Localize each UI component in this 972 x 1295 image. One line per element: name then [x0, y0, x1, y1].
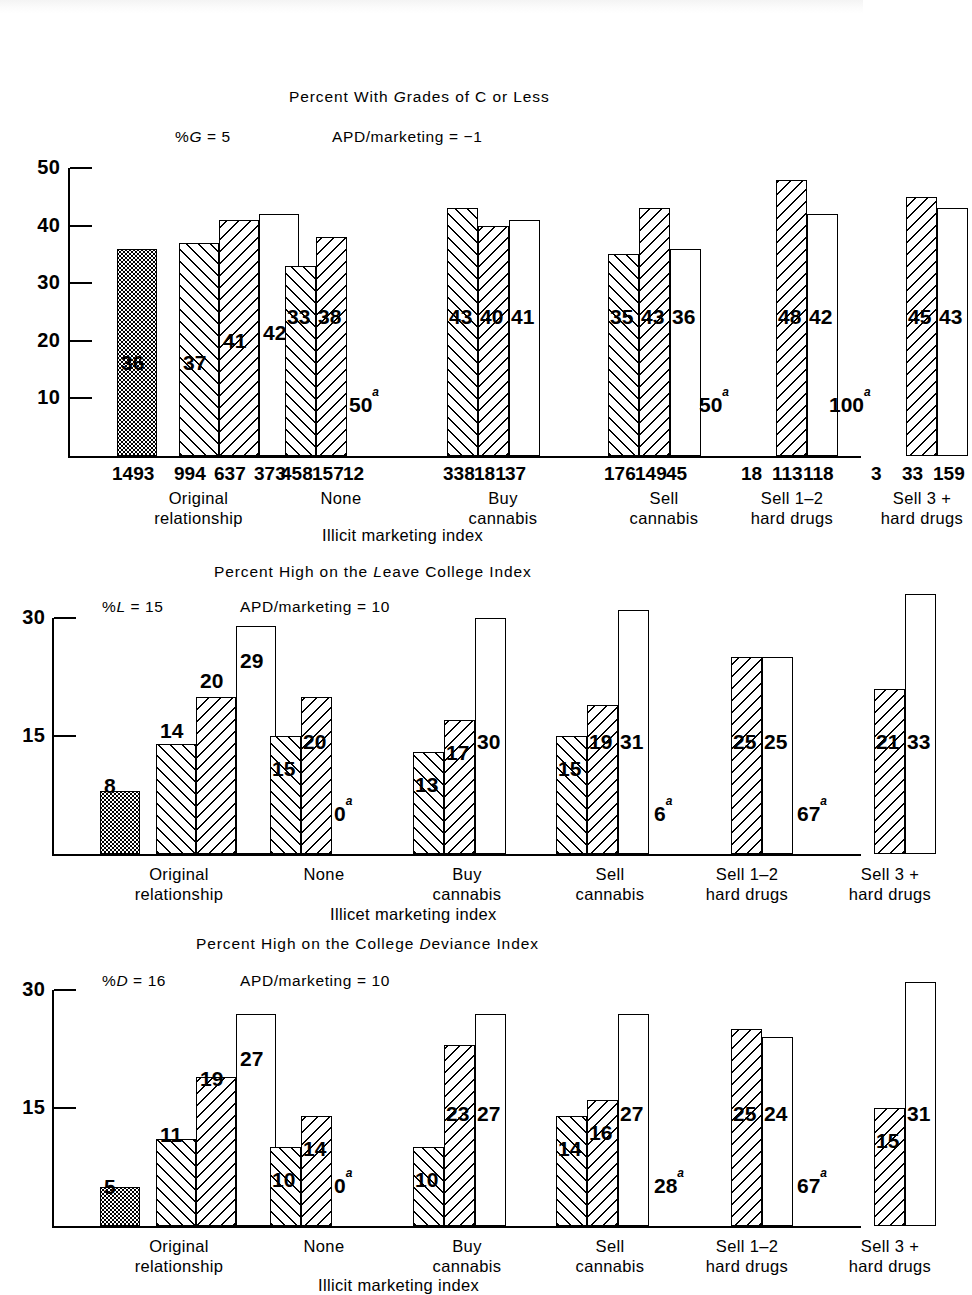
left-annotation-prefix: % — [102, 972, 116, 989]
group-caption: Sell 3 +hard drugs — [857, 488, 972, 528]
bar-n-label: 159 — [933, 464, 965, 483]
bar-n-label: 3 — [871, 464, 882, 483]
left-bar-hatchL — [196, 1077, 236, 1226]
group-caption: None — [268, 1236, 380, 1256]
bar-value-label: 14 — [558, 1138, 581, 1159]
bar-value-label: 45 — [908, 306, 931, 327]
y-tick-label: 15 — [12, 1096, 45, 1119]
group-caption: Sell 1–2hard drugs — [682, 1236, 812, 1276]
y-tick-label: 30 — [12, 978, 45, 1001]
left-bar-value: 5 — [104, 1176, 116, 1197]
group-caption-line-0: Buy — [411, 1236, 523, 1256]
left-bar-value: 11 — [160, 1124, 182, 1145]
group-caption-line-1: hard drugs — [682, 1256, 812, 1276]
panel-title-prefix: Percent High on the College — [196, 935, 419, 952]
right-annotation: APD/marketing = 10 — [240, 972, 390, 990]
bar-value-label: 23 — [446, 1103, 469, 1124]
left-annotation: %D = 16 — [102, 972, 166, 990]
group-caption-line-0: None — [268, 1236, 380, 1256]
group-caption-line-1: hard drugs — [825, 1256, 955, 1276]
panel-title: Percent High on the College Deviance Ind… — [196, 935, 539, 953]
left-group-caption-line-1: relationship — [52, 1256, 306, 1276]
left-annotation-italic-letter: D — [116, 972, 128, 989]
bar-value-label: 27 — [477, 1103, 500, 1124]
group-caption-line-0: Sell 3 + — [825, 1236, 955, 1256]
bar-hatchL — [301, 1116, 332, 1226]
bar-value-label: 31 — [907, 1103, 930, 1124]
bar-n-label: 33 — [902, 464, 923, 483]
bar-value-label: 10 — [415, 1169, 438, 1190]
bar-plain — [762, 1037, 793, 1226]
bar-value-label: 28a — [654, 1175, 684, 1196]
bar-value-label: 24 — [764, 1103, 787, 1124]
bar-value-label: 0a — [334, 1175, 352, 1196]
bar-value-label: 10 — [272, 1169, 295, 1190]
group-caption-line-0: Sell 3 + — [857, 488, 972, 508]
bar-value-label: 25 — [733, 1103, 756, 1124]
bar-value-label: 67a — [797, 1175, 827, 1196]
group-caption-line-1: hard drugs — [857, 508, 972, 528]
bar-value-label: 14 — [303, 1138, 326, 1159]
y-tick — [54, 1107, 76, 1109]
bar-value-label: 33 — [907, 731, 930, 752]
x-axis-title: Illicit marketing index — [318, 1276, 479, 1295]
bar-value-label: 21 — [876, 731, 899, 752]
left-annotation-suffix: = 16 — [128, 972, 166, 989]
left-bar-value: 19 — [200, 1068, 223, 1089]
group-caption-line-1: cannabis — [554, 1256, 666, 1276]
bar-plain — [905, 594, 936, 854]
right-baseline — [256, 1226, 861, 1228]
group-caption: Sell 3 +hard drugs — [825, 1236, 955, 1276]
bar-hatchL — [874, 689, 905, 854]
panel-title-suffix: eviance Index — [431, 935, 538, 952]
bar-value-label: 43 — [939, 306, 962, 327]
left-bar-hatchR — [156, 1139, 196, 1226]
bar-value-label: 15 — [876, 1130, 899, 1151]
bar-hatchL — [444, 1045, 475, 1226]
bar-hatchL — [874, 1108, 905, 1226]
bar-hatchL — [587, 1100, 618, 1226]
panel-title-italic-letter: D — [419, 935, 431, 952]
group-caption: Sellcannabis — [554, 1236, 666, 1276]
bar-plain — [937, 208, 968, 456]
left-bar-value: 27 — [240, 1048, 263, 1069]
group-caption-line-0: Sell 1–2 — [682, 1236, 812, 1256]
y-tick — [54, 989, 76, 991]
bar-hatchR — [556, 1116, 587, 1226]
y-axis-line — [52, 990, 54, 1228]
bar-value-label: 16 — [589, 1122, 612, 1143]
group-caption-line-1: cannabis — [411, 1256, 523, 1276]
bar-hatchL — [731, 1029, 762, 1226]
bar-value-label: 27 — [620, 1103, 643, 1124]
group-caption: Buycannabis — [411, 1236, 523, 1276]
group-caption-line-0: Sell — [554, 1236, 666, 1256]
